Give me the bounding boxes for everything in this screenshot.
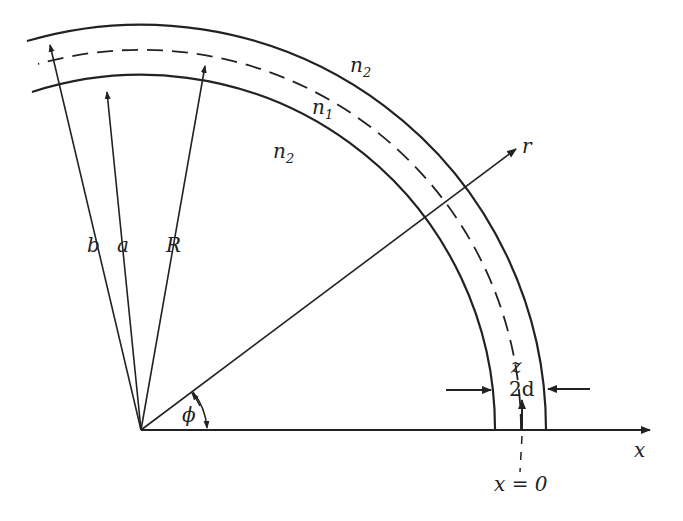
label-phi: ϕ (182, 403, 196, 427)
label-a: a (117, 233, 129, 257)
label-x-equals-0: x = 0 (494, 472, 548, 496)
label-n1: n1 (312, 95, 333, 122)
inner-boundary-arc (32, 75, 495, 430)
label-n2-inner: n2 (273, 139, 294, 166)
label-b: b (87, 233, 100, 257)
outer-boundary-arc (27, 25, 546, 430)
label-r-axis: r (522, 134, 533, 158)
x-zero-dashed-line (520, 436, 522, 472)
center-dashed-arc (38, 50, 521, 430)
label-z: z (510, 354, 522, 378)
label-n2-outer: n2 (350, 53, 371, 80)
label-2d: 2d (509, 377, 535, 401)
radius-a-line (107, 92, 141, 430)
label-x-axis: x (634, 438, 645, 462)
r-axis (141, 149, 516, 430)
curved-waveguide-diagram: n2 n1 n2 r x b a R ϕ z 2d x = 0 (0, 0, 683, 521)
label-R: R (165, 233, 181, 257)
